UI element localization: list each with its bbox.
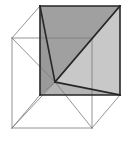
figure-container	[0, 0, 132, 145]
cube-diagram	[0, 0, 132, 145]
